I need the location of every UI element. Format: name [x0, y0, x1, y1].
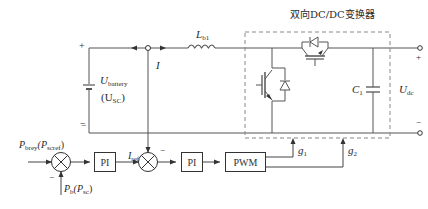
pwm-block: PWM — [225, 152, 266, 172]
source-plus: + — [79, 41, 85, 51]
circuit-diagram — [0, 0, 428, 209]
current-label: I — [156, 60, 160, 71]
sum2-minus-top: − — [160, 146, 165, 155]
inductor-label: Lb1 — [196, 29, 209, 42]
pi-controller-1: PI — [94, 152, 116, 172]
current-reference-label: Iref — [128, 151, 139, 163]
output-terminal-plus — [418, 46, 423, 51]
summing-junction-1 — [52, 153, 71, 172]
gate-signal-g2: g2 — [348, 145, 357, 158]
capacitor-label: C1 — [352, 84, 363, 97]
converter-title: 双向DC/DC变换器 — [290, 10, 375, 20]
battery-voltage-label: Ubattery — [100, 75, 127, 88]
sum2-minus-left: − — [81, 121, 86, 130]
upper-diode-icon — [310, 37, 318, 47]
output-minus: − — [416, 118, 421, 127]
output-plus: + — [416, 53, 421, 62]
summing-junction-2 — [139, 153, 158, 172]
sc-voltage-label: (USC) — [101, 92, 125, 105]
feedback-power-label: Pb(Psc) — [64, 184, 92, 196]
inductor-icon — [188, 45, 215, 48]
current-sensor-node — [146, 46, 151, 51]
gate-signal-g1: g1 — [298, 145, 307, 158]
output-terminal-minus — [418, 131, 423, 136]
sum1-minus-sign: − — [49, 173, 54, 182]
pi-controller-2: PI — [181, 152, 203, 172]
reference-power-label: Pbrey(Pscref) — [19, 140, 64, 152]
diode-icon — [280, 81, 290, 90]
output-voltage-label: Udc — [399, 84, 414, 97]
